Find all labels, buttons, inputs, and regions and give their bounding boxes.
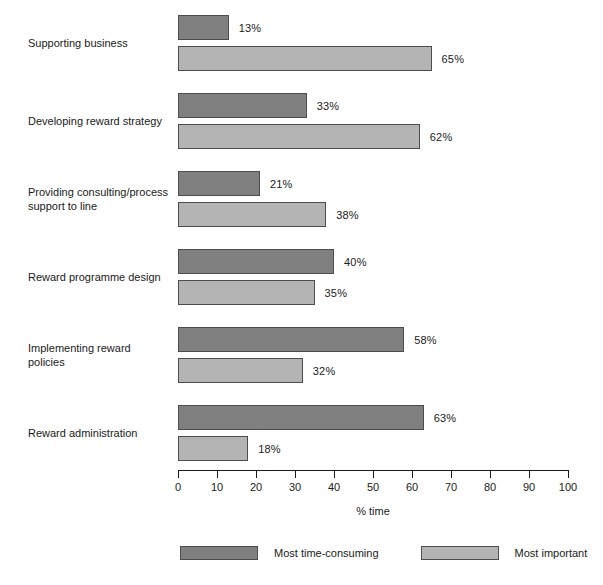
bar-value-label: 21% [270,178,293,190]
bar[interactable] [178,124,420,149]
category-label-line: Developing reward strategy [28,114,173,128]
axis-tick [256,470,257,478]
x-axis-title: % time [178,505,568,517]
chart-page: Supporting businessDeveloping reward str… [0,0,603,585]
bar-row: 58% [178,327,568,352]
bar[interactable] [178,171,260,196]
axis-tick-label: 50 [367,481,379,493]
bar-row: 40% [178,249,568,274]
axis-tick-label: 60 [406,481,418,493]
axis-tick [373,470,374,478]
bar-group: 63%18% [178,405,568,461]
axis-tick [451,470,452,478]
bar-value-label: 63% [434,412,457,424]
bar[interactable] [178,93,307,118]
category-label-line: Reward programme design [28,270,173,284]
bar[interactable] [178,405,424,430]
category-label-line: Supporting business [28,36,173,50]
axis-tick [295,470,296,478]
bar-value-label: 32% [313,365,336,377]
bar[interactable] [178,249,334,274]
axis-tick [217,470,218,478]
axis-tick-label: 90 [523,481,535,493]
axis-tick [529,470,530,478]
bar-value-label: 13% [239,22,262,34]
category-label-line: Implementing reward [28,341,173,355]
bar-value-label: 18% [258,443,281,455]
category-label: Reward administration [28,426,173,440]
axis-tick-label: 30 [289,481,301,493]
bar-value-label: 62% [430,131,453,143]
axis-tick-label: 70 [445,481,457,493]
category-label: Implementing rewardpolicies [28,341,173,369]
axis-tick-label: 20 [250,481,262,493]
bar-group: 13%65% [178,15,568,71]
axis-tick-label: 40 [328,481,340,493]
bar[interactable] [178,436,248,461]
category-label: Providing consulting/processsupport to l… [28,185,173,213]
bar-group: 40%35% [178,249,568,305]
legend-item-most-important[interactable]: Most important [421,546,588,560]
category-label-line: Providing consulting/process [28,185,173,199]
bar-value-label: 65% [442,53,465,65]
bar-row: 35% [178,280,568,305]
bar-row: 21% [178,171,568,196]
bar-value-label: 38% [336,209,359,221]
axis-tick [568,470,569,478]
bar-row: 63% [178,405,568,430]
legend-swatch-icon [421,546,499,560]
bar-row: 62% [178,124,568,149]
legend-swatch-icon [180,546,258,560]
bar-row: 38% [178,202,568,227]
axis-tick-label: 100 [559,481,577,493]
bar-row: 18% [178,436,568,461]
category-label-line: support to line [28,199,173,213]
bar[interactable] [178,46,432,71]
legend-label: Most important [515,547,588,559]
x-axis: 0102030405060708090100 [178,470,568,510]
bar-group: 21%38% [178,171,568,227]
bar-value-label: 40% [344,256,367,268]
legend-item-most-time-consuming[interactable]: Most time-consuming [180,546,379,560]
bar-row: 65% [178,46,568,71]
plot-area: 13%65%33%62%21%38%40%35%58%32%63%18% [178,15,568,470]
bar-row: 32% [178,358,568,383]
axis-tick-label: 0 [175,481,181,493]
bar-row: 13% [178,15,568,40]
axis-tick [412,470,413,478]
bar-value-label: 33% [317,100,340,112]
category-label: Reward programme design [28,270,173,284]
bar[interactable] [178,327,404,352]
axis-tick [178,470,179,478]
category-label: Supporting business [28,36,173,50]
category-label-line: Reward administration [28,426,173,440]
chart-legend: Most time-consuming Most important [180,546,587,560]
legend-label: Most time-consuming [274,547,379,559]
axis-tick-label: 10 [211,481,223,493]
axis-tick-label: 80 [484,481,496,493]
bar-value-label: 58% [414,334,437,346]
category-label-line: policies [28,355,173,369]
bar-row: 33% [178,93,568,118]
bar[interactable] [178,15,229,40]
bar-group: 58%32% [178,327,568,383]
category-label: Developing reward strategy [28,114,173,128]
axis-tick [490,470,491,478]
axis-tick [334,470,335,478]
bar[interactable] [178,202,326,227]
bar-value-label: 35% [325,287,348,299]
bar[interactable] [178,358,303,383]
bar-group: 33%62% [178,93,568,149]
bar[interactable] [178,280,315,305]
